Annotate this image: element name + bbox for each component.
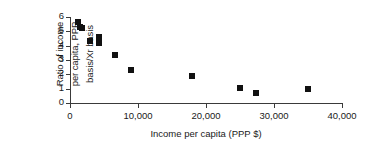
x-axis-tick-label: 10,000	[123, 110, 152, 121]
y-axis-tick	[66, 46, 70, 47]
x-axis-title: Income per capita (PPP $)	[70, 128, 342, 139]
y-axis-tick-label: 5	[59, 24, 64, 35]
y-axis-tick-label: 1	[59, 82, 64, 93]
y-axis-tick	[66, 31, 70, 32]
x-axis-tick	[274, 103, 275, 108]
y-axis-title: Ratio of income per capita, PPP basis/Xr…	[8, 2, 54, 106]
plot-area: 0123456 010,00020,00030,00040,000	[70, 17, 342, 103]
data-point	[79, 25, 85, 31]
x-axis-tick	[206, 103, 207, 108]
data-point	[112, 52, 118, 58]
data-point	[253, 90, 259, 96]
x-axis-tick-label: 30,000	[259, 110, 288, 121]
data-point	[305, 86, 311, 92]
x-axis-tick	[138, 103, 139, 108]
x-axis-tick-label: 0	[67, 110, 72, 121]
data-point	[96, 40, 102, 46]
data-point	[237, 85, 243, 91]
y-axis-tick-label: 0	[59, 96, 64, 107]
y-axis-tick	[66, 74, 70, 75]
y-axis-tick-label: 3	[59, 53, 64, 64]
y-axis-tick-label: 2	[59, 67, 64, 78]
y-axis-tick	[66, 60, 70, 61]
scatter-chart-figure: Ratio of income per capita, PPP basis/Xr…	[0, 0, 370, 150]
y-axis-tick-label: 6	[59, 10, 64, 21]
x-axis-tick	[70, 103, 71, 108]
data-point	[87, 38, 93, 44]
x-axis-tick-label: 40,000	[327, 110, 356, 121]
y-axis-line	[70, 17, 71, 103]
x-axis-tick	[342, 103, 343, 108]
y-axis-tick	[66, 17, 70, 18]
y-axis-tick-label: 4	[59, 39, 64, 50]
x-axis-tick-label: 20,000	[191, 110, 220, 121]
data-point	[128, 67, 134, 73]
data-point	[189, 73, 195, 79]
y-axis-tick	[66, 89, 70, 90]
